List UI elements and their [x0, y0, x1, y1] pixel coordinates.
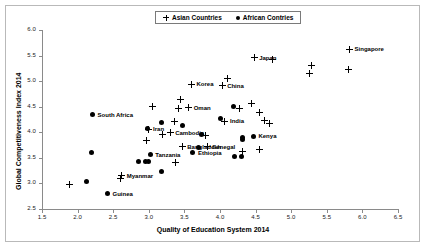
data-point-plus	[172, 159, 179, 166]
plus-marker-icon	[163, 15, 169, 21]
x-tick-mark	[220, 210, 221, 213]
x-tick-label: 6.0	[350, 214, 374, 220]
data-point-dot	[159, 120, 164, 125]
legend-label-african-countries: African Contries	[243, 14, 294, 21]
legend-item-african-countries[interactable]: African Contries	[236, 14, 294, 21]
data-point-plus	[251, 54, 258, 61]
data-point-plus	[143, 137, 150, 144]
data-point-plus	[346, 46, 353, 53]
data-point-label: Kenya	[258, 133, 276, 139]
data-point-label: Ethiopia	[198, 150, 222, 156]
data-point-label: Tanzania	[155, 152, 180, 158]
chart-legend: Asian Countries African Contries	[155, 11, 301, 24]
data-point-plus	[256, 109, 263, 116]
data-point-plus	[219, 82, 226, 89]
data-point-plus	[224, 75, 231, 82]
data-point-plus	[179, 143, 186, 150]
y-axis-title: Global Competitiveness Index 2014	[15, 73, 22, 191]
data-point-plus	[159, 131, 166, 138]
data-point-plus	[167, 129, 174, 136]
x-tick-label: 5.0	[279, 214, 303, 220]
data-point-dot	[159, 169, 164, 174]
x-tick-mark	[256, 210, 257, 213]
x-tick-mark	[149, 210, 150, 213]
data-point-plus	[118, 172, 125, 179]
x-tick-label: 3.0	[137, 214, 161, 220]
data-point-label: India	[230, 118, 244, 124]
data-point-dot	[251, 134, 256, 139]
data-point-plus	[171, 118, 178, 125]
data-point-label: Korea	[197, 81, 214, 87]
data-point-plus	[177, 96, 184, 103]
x-axis-title: Quality of Education System 2014	[0, 226, 426, 233]
data-point-plus	[236, 105, 243, 112]
data-point-plus	[175, 105, 182, 112]
x-tick-mark	[113, 210, 114, 213]
data-point-label: Senegal	[212, 144, 235, 150]
data-point-plus	[66, 181, 73, 188]
data-point-label: Singapore	[355, 46, 384, 52]
data-point-dot	[89, 150, 94, 155]
data-point-plus	[256, 146, 263, 153]
data-point-plus	[149, 103, 156, 110]
data-point-label: China	[227, 83, 244, 89]
x-tick-label: 2.0	[66, 214, 90, 220]
data-point-plus	[248, 100, 255, 107]
data-point-plus	[188, 81, 195, 88]
data-point-dot	[180, 123, 185, 128]
data-point-label: South Africa	[98, 112, 133, 118]
data-point-dot	[136, 159, 141, 164]
legend-item-asian-countries[interactable]: Asian Countries	[163, 14, 222, 21]
x-tick-label: 1.5	[30, 214, 54, 220]
x-tick-mark	[362, 210, 363, 213]
x-tick-mark	[291, 210, 292, 213]
data-point-label: Myanmar	[127, 173, 153, 179]
data-point-label: Oman	[194, 105, 211, 111]
x-tick-label: 2.5	[101, 214, 125, 220]
x-tick-label: 3.5	[172, 214, 196, 220]
y-tick-label: 5.5	[18, 52, 36, 58]
x-tick-mark	[184, 210, 185, 213]
data-point-plus	[308, 62, 315, 69]
data-point-plus	[269, 56, 276, 63]
scatter-chart: 2.53.03.54.04.55.05.56.0 1.52.02.53.03.5…	[0, 0, 426, 248]
x-tick-mark	[327, 210, 328, 213]
x-tick-label: 6.5	[386, 214, 410, 220]
x-tick-label: 4.5	[244, 214, 268, 220]
data-point-plus	[266, 120, 273, 127]
legend-label-asian-countries: Asian Countries	[172, 14, 222, 21]
x-tick-mark	[42, 210, 43, 213]
x-tick-label: 4.0	[208, 214, 232, 220]
data-point-plus	[306, 70, 313, 77]
data-point-label: Guinea	[113, 191, 133, 197]
x-tick-label: 5.5	[315, 214, 339, 220]
y-tick-label: 6.0	[18, 26, 36, 32]
x-tick-mark	[398, 210, 399, 213]
dot-marker-icon	[236, 16, 240, 20]
y-tick-label: 2.5	[18, 205, 36, 211]
x-tick-mark	[78, 210, 79, 213]
data-point-plus	[345, 66, 352, 73]
data-point-plus	[185, 104, 192, 111]
